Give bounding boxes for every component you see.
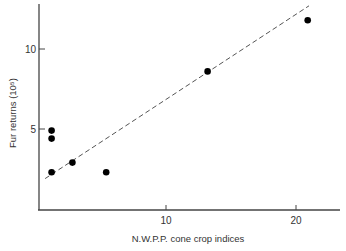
data-point xyxy=(48,127,55,134)
data-point xyxy=(204,68,211,75)
x-tick-label: 20 xyxy=(290,215,302,226)
data-point xyxy=(304,17,311,24)
y-tick-label: 10 xyxy=(25,44,37,55)
scatter-plot: 1020510 N.W.P.P. cone crop indices Fur r… xyxy=(0,0,346,251)
x-axis-label: N.W.P.P. cone crop indices xyxy=(132,233,245,244)
data-point xyxy=(69,159,76,166)
x-tick-label: 10 xyxy=(160,215,172,226)
y-tick-label: 5 xyxy=(30,124,36,135)
data-point xyxy=(48,169,55,176)
data-point xyxy=(103,169,110,176)
data-point xyxy=(48,135,55,142)
regression-line xyxy=(45,6,309,179)
y-axis-label: Fur returns (10⁵) xyxy=(7,78,18,148)
